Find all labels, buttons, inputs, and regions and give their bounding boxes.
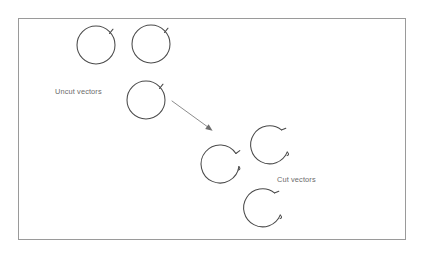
vector-diagram: Uncut vectors Cut vectors xyxy=(0,0,421,254)
figure-frame xyxy=(19,19,406,240)
figure-container: Uncut vectors Cut vectors xyxy=(0,0,421,254)
uncut-vectors-label: Uncut vectors xyxy=(55,87,102,96)
cut-vectors-label: Cut vectors xyxy=(277,175,316,184)
